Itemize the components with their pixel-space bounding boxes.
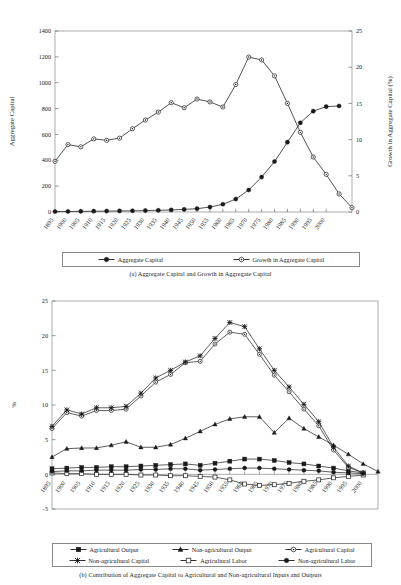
chart-a-xtick: 1995	[300, 216, 313, 230]
chart-b-point	[257, 352, 261, 356]
chart-a-point	[247, 188, 251, 192]
chart-b-ytick: 25	[42, 297, 48, 304]
chart-b-point	[242, 324, 247, 329]
chart-a-point	[234, 197, 238, 201]
chart-b-point	[272, 483, 276, 487]
chart-b-point	[124, 439, 128, 443]
chart-b-point	[287, 481, 291, 485]
chart-b-point	[124, 472, 128, 476]
chart-b-point	[346, 463, 351, 468]
chart-a-point	[169, 101, 173, 105]
chart-b-ylabel: %	[10, 402, 17, 408]
chart-b-point	[257, 466, 261, 470]
figure-page: 0200400600800100012001400051015202518951…	[0, 0, 401, 585]
chart-b-ytick: 15	[42, 367, 48, 374]
chart-a-point	[169, 208, 173, 212]
chart-a-xtick: 1950	[184, 216, 197, 230]
chart-b-point	[243, 482, 247, 486]
chart-b-point	[94, 468, 98, 472]
chart-b-point	[257, 457, 261, 461]
chart-b-point	[212, 336, 217, 341]
chart-b-series-line	[52, 322, 363, 472]
chart-b-point	[332, 470, 336, 474]
chart-b-ytick: 20	[42, 332, 48, 339]
chart-b-point	[287, 467, 291, 471]
chart-a-ytick: 800	[42, 105, 51, 112]
chart-b-point	[316, 419, 321, 424]
chart-b-point	[169, 474, 173, 478]
chart-a-series-line	[55, 57, 352, 208]
chart-a-point	[324, 172, 328, 176]
chart-b-point	[361, 472, 365, 476]
chart-a-point	[272, 74, 276, 78]
chart-a-ytick: 1200	[39, 53, 51, 60]
chart-b-point	[79, 411, 84, 416]
chart-b-point	[302, 462, 306, 466]
legend-item-label: Agricultural Labor	[199, 557, 247, 564]
chart-a-xtick: 1905	[67, 216, 80, 230]
chart-b-point	[139, 473, 143, 477]
chart-a-point	[311, 155, 315, 159]
chart-b-point	[331, 445, 336, 450]
chart-a-xtick: 1930	[132, 216, 145, 230]
chart-b-point	[198, 474, 202, 478]
chart-a-point	[285, 101, 289, 105]
chart-b-xtick: 1915	[98, 480, 111, 494]
chart-b-point	[257, 483, 261, 487]
chart-a-point	[156, 208, 160, 212]
chart-a-point	[182, 207, 186, 211]
chart-a-y2tick: 15	[356, 100, 362, 107]
chart-b-point	[213, 475, 217, 479]
chart-a-point	[143, 118, 147, 122]
chart-b-xtick: 2000	[350, 480, 363, 494]
chart-b-xtick: 1930	[142, 480, 155, 494]
chart-a-xtick: 1970	[235, 216, 248, 230]
chart-b-point	[302, 479, 306, 483]
chart-b-point	[198, 359, 202, 363]
chart-b-series-line	[52, 332, 363, 473]
chart-a-point	[66, 209, 70, 213]
chart-b-point	[168, 368, 173, 373]
chart-b-point	[287, 461, 291, 465]
chart-b-point	[50, 470, 54, 474]
chart-b-point	[302, 468, 306, 472]
chart-b-point	[213, 342, 217, 346]
legend-marker-open-circle	[285, 545, 302, 554]
chart-b-plot: -505101520251895190019051910191519201925…	[0, 288, 401, 540]
legend-marker-glyph	[76, 547, 81, 552]
chart-b-point	[228, 330, 232, 334]
chart-b-point	[317, 469, 321, 473]
legend-marker-glyph	[74, 558, 80, 564]
chart-b-point	[302, 407, 306, 411]
chart-a-point	[92, 209, 96, 213]
legend-item-label: Agricultural Output	[89, 546, 139, 553]
chart-b-point	[50, 455, 54, 459]
legend-marker-glyph	[284, 558, 289, 563]
chart-b-ytick: 5	[45, 436, 48, 443]
chart-a-xtick: 1960	[209, 216, 222, 230]
chart-a-point	[208, 100, 212, 104]
chart-a-point	[130, 127, 134, 131]
chart-a-xtick: 1955	[196, 216, 209, 230]
legend-item-label: Non-agricultural Output	[191, 546, 252, 553]
chart-a-y2tick: 5	[356, 172, 359, 179]
chart-b-point	[287, 416, 291, 420]
chart-b-point	[361, 462, 365, 466]
chart-b-ytick: -5	[43, 505, 48, 512]
legend-marker-star-x	[69, 556, 86, 565]
chart-b-point	[272, 458, 276, 462]
chart-b-point	[183, 462, 187, 466]
chart-b-point	[301, 402, 306, 407]
chart-b-point	[198, 353, 203, 358]
chart-b-xtick: 1900	[53, 480, 66, 494]
chart-a-ytick: 400	[42, 156, 51, 163]
chart-a-ylabel: Aggregate Capital	[8, 97, 15, 147]
chart-b-xtick: 1950	[202, 480, 215, 494]
chart-a-xtick: 1975	[248, 216, 261, 230]
chart-a-point	[79, 145, 83, 149]
legend-item-agricultural-labor: Agricultural Labor	[180, 556, 247, 565]
chart-b-xtick: 1990	[320, 480, 333, 494]
chart-b-point	[198, 468, 202, 472]
chart-a-point	[311, 109, 315, 113]
chart-b-point	[64, 407, 69, 412]
